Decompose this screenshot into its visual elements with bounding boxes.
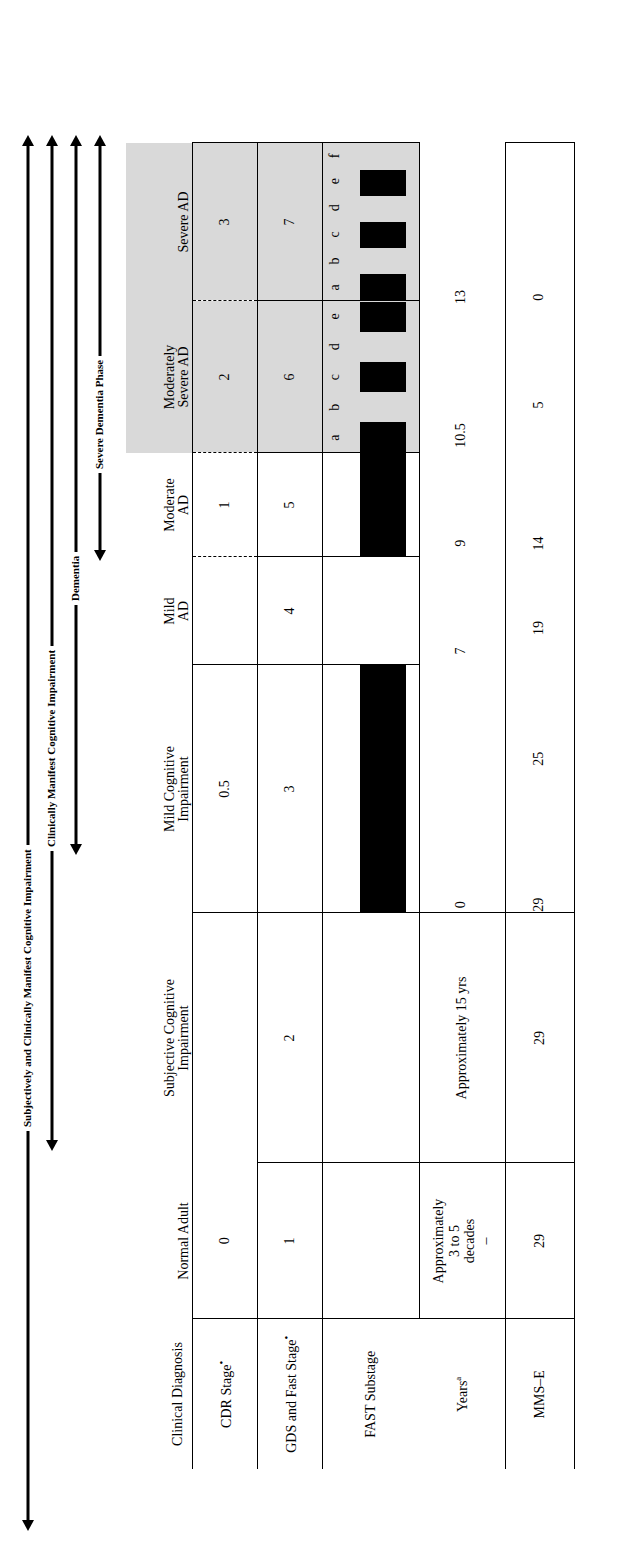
mmse-tick-scale: 2925191450 [523,144,557,913]
column-header-mci-label: Mild Cognitive Impairment [162,746,192,832]
row-label-cdr-stage-text: CDR Stage [219,1364,234,1427]
fast-substage-letter: e [328,178,342,184]
cell-mmse-scale: 2925191450 [506,143,575,913]
table-header-row: Clinical Diagnosis Normal Adult Subjecti… [126,143,193,1469]
fast-substage-letter: d [328,204,342,211]
column-header-normal: Normal Adult [126,1163,193,1319]
fast-bar-segment [360,170,406,196]
column-header-moderate-ad: Moderate AD [126,453,193,557]
mmse-tick: 0 [531,294,547,301]
cell-cdr-moderately-severe-ad: 2 [193,301,258,453]
cell-fast-bar-normal [347,1163,419,1319]
row-label-years: Yearsa [419,1319,506,1469]
arrow-label-1: Clinically Manifest Cognitive Impairment [41,646,61,851]
cell-gds-mci: 3 [258,665,323,913]
cell-fast-labels-mci [323,665,347,913]
column-header-severe-ad-label: Severe AD [176,191,191,252]
column-header-mci: Mild Cognitive Impairment [126,665,193,913]
years-tick: 0 [453,901,469,908]
mmse-tick: 25 [531,752,547,766]
fast-substage-letter: d [328,343,342,350]
fast-substage-letter: b [328,404,342,411]
figure-canvas: Subjectively and Clinically Manifest Cog… [0,0,631,1561]
fast-substage-letter: a [328,434,342,440]
fast-bar-mild-ad [360,558,406,665]
column-header-moderately-severe-ad-label: Moderately Severe AD [162,345,192,410]
cell-fast-bar-mci [347,665,419,913]
cell-fast-labels-normal [323,1163,347,1319]
arrow-severe-dementia-phase: Severe Dementia Phase [90,135,110,561]
fast-substage-letter: f [328,154,342,159]
fast-substage-letter: b [328,257,342,264]
column-header-mild-ad: Mild AD [126,557,193,665]
column-header-sci: Subjective Cognitive Impairment [126,913,193,1163]
fast-bar-mci [360,666,406,913]
cell-gds-moderate-ad: 5 [258,453,323,557]
row-label-gds-fast-stage-marker: • [280,1336,292,1340]
figure-page: Subjectively and Clinically Manifest Cog… [0,0,631,1561]
fast-bar-segment [360,222,406,248]
cell-mmse-normal: 29 [506,1163,575,1319]
cell-fast-labels-moderate-ad [323,453,347,557]
fast-bar-moderate-ad [360,454,406,557]
fast-bar-segment [360,454,406,557]
mmse-tick: 19 [531,621,547,635]
arrow-shaft [27,144,30,1522]
column-header-moderate-ad-label: Moderate AD [162,478,192,532]
fast-bar-segment [360,302,406,332]
fast-bar-segment [360,422,406,452]
cell-fast-bar-sci [347,913,419,1163]
row-label-years-superscript: a [453,1377,463,1381]
table-row-fast-substage-labels: FAST Substage abcde abcdef [323,143,347,1469]
table-row-fast-substage-bars [347,143,419,1469]
column-header-normal-label: Normal Adult [176,1202,191,1279]
fast-substage-letter: a [328,284,342,290]
fast-bar-moderately-severe-ad [360,302,406,453]
cell-cdr-mild-ad [193,557,258,665]
arrow-head-right-icon [94,135,106,146]
arrow-shaft [99,144,102,552]
row-label-gds-fast-stage-text: GDS and Fast Stage [284,1340,299,1453]
fast-bar-severe-ad [360,144,406,301]
row-label-cdr-stage: CDR Stage• [193,1319,258,1469]
mmse-tick: 29 [531,898,547,912]
fast-bar-segment [360,362,406,392]
cell-fast-labels-moderately-severe-ad: abcde [323,301,347,453]
progression-arrows: Subjectively and Clinically Manifest Cog… [18,0,118,1561]
column-header-severe-ad: Severe AD [126,143,193,301]
row-label-mmse: MMS–E [506,1319,575,1469]
column-header-sci-label: Subjective Cognitive Impairment [162,979,192,1097]
years-tick: 7 [453,647,469,654]
fast-substage-letters-severe: abcdef [328,144,342,301]
arrow-head-right-icon [46,135,58,146]
cell-gds-moderately-severe-ad: 6 [258,301,323,453]
arrow-head-right-icon [22,135,34,146]
arrow-label-2: Dementia [65,552,85,605]
fast-substage-letter: c [328,374,342,380]
table-row-years: Yearsa Approximately 3 to 5 decades – Ap… [419,143,506,1469]
cell-gds-severe-ad: 7 [258,143,323,301]
fast-substage-letters-moderately-severe: abcde [328,302,342,453]
cell-fast-bar-mild-ad [347,557,419,665]
mmse-tick: 14 [531,536,547,550]
row-label-years-text: Years [455,1381,470,1412]
table-row-cdr-stage: CDR Stage• 0 0.5 1 2 3 [193,143,258,1469]
arrow-label-3: Severe Dementia Phase [89,356,109,473]
years-tick: 10.5 [453,423,469,448]
cell-years-normal-text: Approximately 3 to 5 decades [431,1164,478,1319]
arrow-clinically-manifest: Clinically Manifest Cognitive Impairment [42,135,62,1151]
column-header-mild-ad-label: Mild AD [162,597,192,624]
fast-substage-letter: e [328,313,342,319]
cell-mmse-sci: 29 [506,913,575,1163]
row-label-cdr-stage-marker: • [215,1361,227,1365]
cell-fast-labels-sci [323,913,347,1163]
cell-cdr-moderate-ad: 1 [193,453,258,557]
cell-cdr-severe-ad: 3 [193,143,258,301]
arrow-shaft [75,144,78,846]
cell-years-sci: Approximately 15 yrs [419,913,506,1163]
table-row-gds-fast-stage: GDS and Fast Stage• 1 2 3 4 5 6 7 [258,143,323,1469]
row-label-fast-substage: FAST Substage [323,1319,420,1469]
cell-gds-sci: 2 [258,913,323,1163]
cell-years-scale: 07910.513 [419,143,506,913]
cell-cdr-sci [193,913,258,1163]
